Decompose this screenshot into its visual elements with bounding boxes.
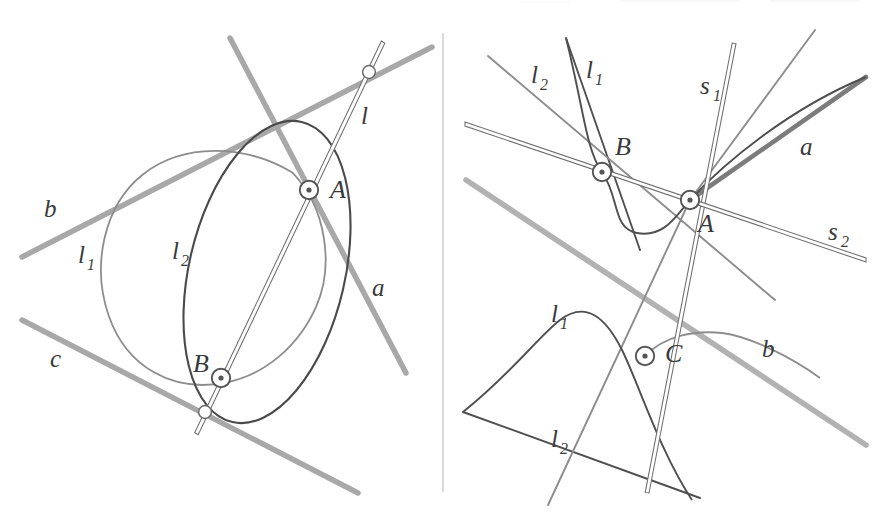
right-label-l2-top-base: l <box>531 61 538 88</box>
right-point-A-marker <box>681 191 699 209</box>
left-label-a: a <box>372 274 385 301</box>
left-point-B-marker <box>212 369 230 387</box>
left-label-b: b <box>44 195 57 222</box>
left-point-l-meets-b <box>363 66 376 79</box>
right-label-C: C <box>665 339 683 368</box>
left-label-l2-sub: 2 <box>181 252 189 269</box>
left-point-A-marker <box>300 181 318 199</box>
right-label-l1-top-base: l <box>586 56 593 83</box>
right-label-l2-top-sub: 2 <box>540 76 548 93</box>
left-label-c: c <box>50 345 61 372</box>
left-label-l1-base: l <box>78 241 85 268</box>
right-label-l1-bottom-base: l <box>551 300 558 327</box>
left-label-l2-base: l <box>172 237 179 264</box>
figure-background <box>0 0 892 515</box>
right-label-B: B <box>615 132 631 161</box>
right-label-l2-bottom-base: l <box>551 425 558 452</box>
left-label-B: B <box>193 349 209 378</box>
right-label-l1-bottom-sub: 1 <box>560 315 568 332</box>
geometry-figure: b c l a l 1 l 2 A B <box>0 0 892 515</box>
left-point-l-meets-c <box>199 406 212 419</box>
right-label-s2-sub: 2 <box>841 233 849 250</box>
left-label-A: A <box>328 175 346 204</box>
right-label-b: b <box>762 335 775 362</box>
right-label-l1-top-sub: 1 <box>595 71 603 88</box>
right-point-B-marker <box>593 163 611 181</box>
right-label-A: A <box>696 209 714 238</box>
right-label-a: a <box>800 133 813 160</box>
right-label-s2-base: s <box>828 218 838 245</box>
left-label-l1-sub: 1 <box>87 256 95 273</box>
right-label-s1-base: s <box>700 72 710 99</box>
left-label-l: l <box>361 102 368 129</box>
right-point-C-marker <box>636 347 654 365</box>
right-label-l2-bottom-sub: 2 <box>560 440 568 457</box>
right-label-s1-sub: 1 <box>713 87 721 104</box>
